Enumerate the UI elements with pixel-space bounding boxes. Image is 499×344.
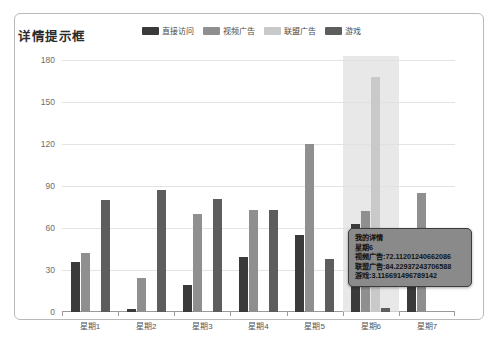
x-axis-tick-label: 星期5 [287,320,343,331]
legend-item-label: 游戏 [345,25,361,36]
bar[interactable] [305,144,314,312]
legend-item[interactable]: 联盟广告 [264,25,316,36]
legend-item-label: 视频广告 [223,25,255,36]
x-axis-tick-mark [174,312,175,316]
y-axis-tick-label: 150 [41,97,55,107]
bar[interactable] [193,214,202,312]
x-axis-tick-label: 星期4 [230,320,286,331]
tooltip-axis-value: 星期6 [355,243,465,253]
legend-swatch-icon [142,27,159,35]
legend-item[interactable]: 游戏 [325,25,361,36]
x-axis-tick-mark [343,312,344,316]
bar-group[interactable]: 星期3 [174,60,230,312]
bar-group[interactable]: 星期4 [230,60,286,312]
bar[interactable] [269,210,278,312]
bar-group-bars [118,60,174,312]
bar[interactable] [71,262,80,312]
bar[interactable] [381,308,390,312]
tooltip-title: 我的详情 [355,233,465,243]
bar-group-bars [174,60,230,312]
legend-swatch-icon [203,27,220,35]
x-axis-tick-label: 星期3 [174,320,230,331]
tooltip-row: 游戏:3.116691496789142 [355,271,465,281]
bar-group-bars [62,60,118,312]
legend-item[interactable]: 视频广告 [203,25,255,36]
x-axis-tick-label: 星期7 [399,320,455,331]
chart-legend: 直接访问视频广告联盟广告游戏 [142,25,361,36]
bar-group[interactable]: 星期2 [118,60,174,312]
screenshot-root: 详情提示框 直接访问视频广告联盟广告游戏 0306090120150180星期1… [0,0,499,344]
legend-swatch-icon [264,27,281,35]
x-axis-tick-label: 星期2 [118,320,174,331]
x-axis-tick-mark [62,312,63,316]
y-axis-tick-label: 0 [50,307,55,317]
bar[interactable] [407,283,416,312]
bar[interactable] [249,210,258,312]
bar[interactable] [127,309,136,312]
y-axis-tick-label: 180 [41,55,55,65]
bar[interactable] [157,190,166,312]
y-axis-tick-label: 90 [46,181,55,191]
x-axis-tick-mark [287,312,288,316]
tooltip-row: 视频广告:72.11201240662086 [355,252,465,262]
bar[interactable] [325,259,334,312]
bar[interactable] [183,285,192,312]
legend-item-label: 直接访问 [162,25,194,36]
y-axis-tick-label: 30 [46,265,55,275]
bar[interactable] [81,253,90,312]
bar[interactable] [295,235,304,312]
legend-swatch-icon [325,27,342,35]
x-axis-tick-mark [230,312,231,316]
bar[interactable] [239,257,248,312]
x-axis-tick-label: 星期6 [343,320,399,331]
bar-group-bars [287,60,343,312]
bar-group[interactable]: 星期1 [62,60,118,312]
x-axis-tick-mark [399,312,400,316]
legend-item-label: 联盟广告 [284,25,316,36]
bar[interactable] [213,199,222,312]
page-title: 详情提示框 [18,26,86,45]
bar-group-bars [230,60,286,312]
tooltip-row: 联盟广告:84.22937243706588 [355,262,465,272]
bar[interactable] [137,278,146,312]
bar[interactable] [101,200,110,312]
bar-group[interactable]: 星期5 [287,60,343,312]
x-axis-tick-mark [118,312,119,316]
legend-item[interactable]: 直接访问 [142,25,194,36]
x-axis-tick-label: 星期1 [62,320,118,331]
y-axis-tick-label: 120 [41,139,55,149]
y-axis-tick-label: 60 [46,223,55,233]
x-axis-tick-mark [454,312,455,316]
chart-tooltip: 我的详情 星期6 视频广告:72.11201240662086 联盟广告:84.… [348,228,472,287]
